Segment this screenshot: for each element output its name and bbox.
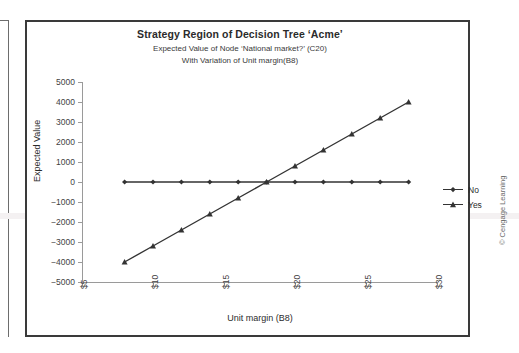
- legend-item-no[interactable]: No: [443, 182, 482, 197]
- legend-label: Yes: [468, 200, 482, 210]
- y-tick-label: 5000: [56, 77, 75, 87]
- data-point-marker-triangle: [377, 115, 383, 121]
- copyright-notice: © Cengage Learning: [498, 176, 507, 245]
- y-tick-mark: [78, 102, 82, 103]
- page-gutter-rule: [8, 20, 9, 337]
- y-tick-mark: [78, 122, 82, 123]
- y-tick-label: 2000: [56, 137, 75, 147]
- y-tick-label: 1000: [56, 157, 75, 167]
- y-tick-label: 3000: [56, 117, 75, 127]
- data-point-marker-triangle: [292, 163, 298, 169]
- data-point-marker-diamond: [236, 179, 241, 184]
- chart-subtitle-primary: Expected Value of Node ‘National market?…: [40, 44, 440, 53]
- data-point-marker-triangle: [349, 131, 355, 137]
- data-point-marker-diamond: [321, 179, 326, 184]
- y-tick-label: −4000: [51, 257, 75, 267]
- x-tick-label: $5: [79, 280, 89, 289]
- legend-label: No: [468, 185, 479, 195]
- y-tick-label: −2000: [51, 217, 75, 227]
- y-tick-label: −5000: [51, 277, 75, 287]
- x-axis-title: Unit margin (B8): [82, 313, 438, 323]
- x-axis-line: [82, 282, 438, 283]
- data-point-marker-diamond: [150, 179, 155, 184]
- series-plot: [82, 82, 437, 282]
- chart-title: Strategy Region of Decision Tree ‘Acme’: [40, 28, 440, 40]
- x-tick-label: $30: [434, 275, 444, 289]
- data-point-marker-triangle: [122, 259, 128, 265]
- legend-marker-diamond-icon: [443, 185, 463, 194]
- y-tick-mark: [78, 242, 82, 243]
- x-tick-label: $10: [150, 275, 160, 289]
- data-point-marker-triangle: [235, 195, 241, 201]
- y-tick-label: 0: [70, 177, 75, 187]
- data-point-marker-triangle: [207, 211, 213, 217]
- y-tick-mark: [78, 202, 82, 203]
- chart-legend: NoYes: [443, 182, 482, 212]
- y-tick-label: −1000: [51, 197, 75, 207]
- y-tick-mark: [78, 82, 82, 83]
- data-point-marker-triangle: [450, 202, 456, 208]
- data-point-marker-diamond: [349, 179, 354, 184]
- data-point-marker-diamond: [122, 179, 127, 184]
- x-tick-label: $25: [363, 275, 373, 289]
- x-tick-label: $15: [221, 275, 231, 289]
- data-point-marker-triangle: [178, 227, 184, 233]
- data-point-marker-triangle: [406, 99, 412, 105]
- data-point-marker-diamond: [292, 179, 297, 184]
- legend-marker-triangle-icon: [443, 200, 463, 209]
- data-point-marker-triangle: [320, 147, 326, 153]
- data-point-marker-diamond: [179, 179, 184, 184]
- data-point-marker-diamond: [450, 187, 455, 192]
- y-tick-mark: [78, 182, 82, 183]
- data-point-marker-diamond: [406, 179, 411, 184]
- x-tick-label: $20: [292, 275, 302, 289]
- y-tick-mark: [78, 222, 82, 223]
- y-tick-label: 4000: [56, 97, 75, 107]
- y-tick-mark: [78, 162, 82, 163]
- data-point-marker-triangle: [150, 243, 156, 249]
- legend-item-yes[interactable]: Yes: [443, 197, 482, 212]
- data-point-marker-diamond: [207, 179, 212, 184]
- y-tick-label: −3000: [51, 237, 75, 247]
- chart-subtitle-secondary: With Variation of Unit margin(B8): [40, 56, 440, 65]
- y-tick-mark: [78, 142, 82, 143]
- y-axis-title: Expected Value: [32, 120, 42, 182]
- data-point-marker-diamond: [378, 179, 383, 184]
- y-tick-mark: [78, 262, 82, 263]
- page-gutter-tick: [0, 20, 9, 21]
- plot-area: −5000−4000−3000−2000−1000010002000300040…: [82, 82, 437, 282]
